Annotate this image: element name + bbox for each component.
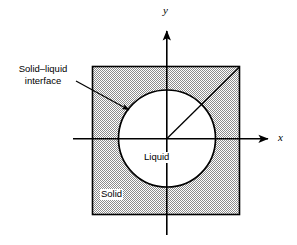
- interface-annotation-line1: Solid–liquid: [8, 63, 78, 75]
- x-axis-label: x: [278, 131, 283, 144]
- interface-annotation-line2: interface: [8, 75, 78, 87]
- solid-region-label: Solid: [100, 189, 123, 200]
- solid-liquid-interface-figure: y x Liquid Solid Solid–liquid interface: [0, 0, 297, 245]
- figure-canvas: [0, 0, 297, 245]
- interface-annotation: Solid–liquid interface: [8, 63, 78, 87]
- y-axis-label: y: [163, 4, 168, 17]
- liquid-region-label: Liquid: [143, 152, 170, 163]
